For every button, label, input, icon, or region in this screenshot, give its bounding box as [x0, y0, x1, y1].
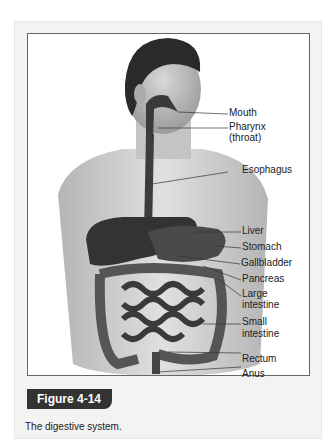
label-stomach: Stomach — [242, 241, 281, 252]
label-large-intestine: intestine — [242, 299, 279, 310]
label-mouth: Mouth — [229, 107, 257, 118]
figure-caption: The digestive system. — [25, 421, 122, 432]
label-esophagus: Esophagus — [242, 164, 292, 175]
label-gallbladder: Gallbladder — [241, 257, 292, 268]
label-rectum: Rectum — [242, 353, 276, 364]
figure-frame — [27, 33, 310, 376]
label-small: Small — [242, 316, 267, 327]
figure-number-tab: Figure 4-14 — [27, 389, 112, 409]
label-large: Large — [242, 288, 268, 299]
label-anus: Anus — [242, 368, 265, 379]
label-pharynx: Pharynx — [229, 121, 266, 132]
label-pancreas: Pancreas — [242, 273, 284, 284]
label-pharynx-throat: (throat) — [229, 132, 261, 143]
digestive-system-illustration — [28, 34, 310, 376]
label-small-intestine: intestine — [242, 328, 279, 339]
label-liver: Liver — [242, 225, 264, 236]
